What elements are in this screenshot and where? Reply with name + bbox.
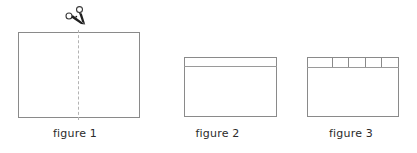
figure-1-caption: figure 1 bbox=[0, 127, 150, 140]
band-cell bbox=[333, 57, 350, 67]
band-cell bbox=[382, 57, 399, 67]
figure-1-group: figure 1 bbox=[0, 0, 150, 153]
figure-3-band-divider-line bbox=[307, 67, 399, 68]
figure-1-rectangle bbox=[18, 32, 140, 118]
band-cell bbox=[366, 57, 383, 67]
figure-1-dashed-cut-line bbox=[78, 30, 79, 120]
figure-2-group: figure 2 bbox=[150, 0, 285, 153]
band-cell bbox=[307, 57, 333, 67]
diagram-canvas: figure 1 figure 2 figure 3 bbox=[0, 0, 417, 153]
figure-3-group: figure 3 bbox=[285, 0, 417, 153]
figure-2-band-divider-line bbox=[184, 66, 277, 67]
band-cell bbox=[349, 57, 366, 67]
figure-3-band-cells bbox=[307, 57, 399, 67]
figure-3-caption: figure 3 bbox=[285, 127, 417, 140]
scissors-icon bbox=[60, 5, 92, 33]
figure-2-caption: figure 2 bbox=[150, 127, 285, 140]
